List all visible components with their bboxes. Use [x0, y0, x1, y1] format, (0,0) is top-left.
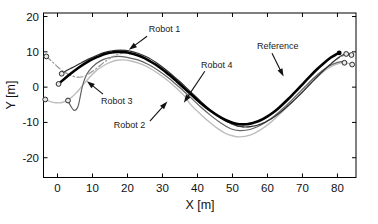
x-tick-label: 20 — [121, 182, 134, 194]
y-tick-label: 0 — [33, 81, 39, 93]
plot-area — [44, 13, 357, 178]
start-end-marker-robot-1 — [344, 52, 349, 57]
annotation-label-robot-2: Robot 2 — [114, 120, 146, 130]
trajectory-chart: Robot 1Robot 4ReferenceRobot 3Robot 2 01… — [0, 0, 378, 224]
start-end-marker-robot-3 — [66, 98, 71, 103]
x-tick-label: 80 — [331, 182, 344, 194]
annotation-label-robot-1: Robot 1 — [149, 24, 181, 34]
x-tick-label: 10 — [86, 182, 99, 194]
annotation-label-robot-4: Robot 4 — [201, 60, 233, 70]
trajectory-figure: Robot 1Robot 4ReferenceRobot 3Robot 2 01… — [0, 0, 378, 224]
start-end-marker-robot-1 — [59, 71, 64, 76]
x-axis-label: X [m] — [185, 198, 214, 212]
x-tick-label: 0 — [54, 182, 60, 194]
start-end-marker-robot-2 — [43, 97, 48, 102]
annotation-label-robot-3: Robot 3 — [101, 96, 133, 106]
start-end-marker-robot-3 — [342, 60, 347, 65]
start-end-marker-robot-4 — [349, 53, 354, 58]
y-axis-label: Y [m] — [4, 81, 18, 110]
x-tick-label: 60 — [261, 182, 274, 194]
y-tick-label: -10 — [22, 116, 39, 128]
x-tick-label: 70 — [296, 182, 309, 194]
end-dot-reference — [337, 50, 342, 55]
start-end-marker-reference — [56, 82, 61, 87]
y-tick-label: -20 — [22, 152, 39, 164]
annotation-label-reference: Reference — [257, 41, 299, 51]
y-tick-label: 20 — [26, 11, 39, 23]
start-end-marker-robot-4 — [44, 54, 49, 59]
x-tick-label: 40 — [191, 182, 204, 194]
x-tick-label: 50 — [226, 182, 239, 194]
x-tick-label: 30 — [156, 182, 169, 194]
start-end-marker-robot-2 — [350, 62, 355, 67]
y-tick-label: 10 — [26, 46, 39, 58]
